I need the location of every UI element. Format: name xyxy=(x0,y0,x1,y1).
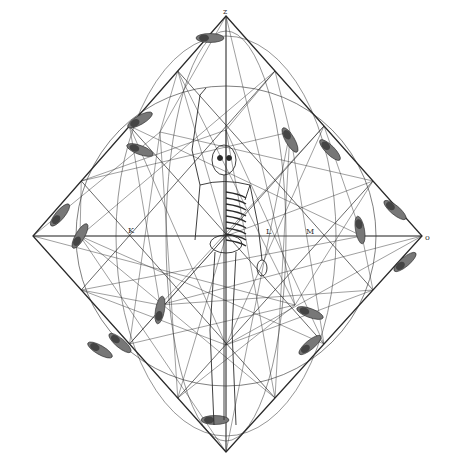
footprint-icon xyxy=(317,137,343,163)
footprint-icon xyxy=(391,250,418,275)
footprint-icon xyxy=(125,141,154,159)
footprint-icon xyxy=(201,416,229,425)
radial-line xyxy=(160,126,324,305)
radial-line xyxy=(178,71,226,236)
diagram-label: K xyxy=(128,226,135,235)
radial-line xyxy=(130,236,227,344)
footprint-icon xyxy=(86,339,115,361)
radial-line xyxy=(81,290,226,345)
footprint-icon xyxy=(279,126,301,155)
footprint-icon xyxy=(295,304,324,322)
geometric-diagram: zoKLM xyxy=(0,0,450,466)
diagram-label: o xyxy=(425,233,430,242)
radial-line xyxy=(81,132,290,181)
diagram-label: M xyxy=(306,227,314,236)
radial-line xyxy=(160,16,226,132)
diagram-label: L xyxy=(266,227,272,236)
footprint-icon xyxy=(381,198,408,223)
footprint-icon xyxy=(153,295,167,324)
radial-line xyxy=(80,236,275,398)
diagram-label: z xyxy=(223,7,227,16)
radial-line xyxy=(226,181,373,236)
footprint-icon xyxy=(296,333,323,358)
radial-line xyxy=(362,236,373,290)
engraving-figure: zoKLM xyxy=(0,0,450,466)
grid-line xyxy=(178,181,373,398)
radial-line xyxy=(178,236,226,398)
radial-line xyxy=(160,236,422,305)
radial-line xyxy=(226,71,275,130)
radial-line xyxy=(226,132,290,452)
footprint-icon xyxy=(353,215,367,244)
footprint-icon xyxy=(196,34,224,43)
footprint-icon xyxy=(126,109,155,131)
